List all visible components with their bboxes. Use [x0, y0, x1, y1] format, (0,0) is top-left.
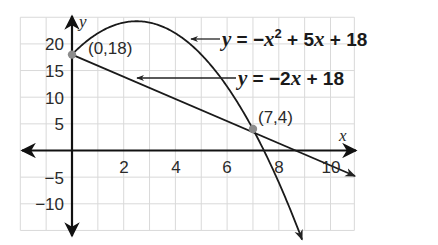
x-tick-label: 4: [171, 158, 180, 177]
y-tick-label: 5: [55, 115, 64, 134]
point-label-7-4: (7,4): [258, 108, 293, 127]
point-0-18: [68, 50, 76, 58]
y-tick-label: −5: [45, 169, 64, 188]
y-axis-label: y: [77, 12, 87, 31]
y-tick-label: −10: [35, 195, 64, 214]
x-tick-label: 2: [119, 158, 128, 177]
graph: y x 20 15 10 5 −5 −10 2 4 6 8 10 (0,18) …: [0, 0, 438, 245]
y-tick-label: 10: [45, 89, 64, 108]
x-axis-label: x: [338, 126, 347, 145]
y-tick-label: 20: [45, 35, 64, 54]
x-tick-label: 10: [322, 158, 341, 177]
x-tick-label: 6: [222, 158, 231, 177]
x-tick-label: 8: [274, 158, 283, 177]
point-label-0-18: (0,18): [88, 39, 132, 58]
equation-parabola: y = −x2 + 5x + 18: [219, 26, 367, 51]
point-7-4: [249, 125, 257, 133]
y-tick-label: 15: [45, 62, 64, 81]
equation-line: y = −2x + 18: [235, 66, 344, 90]
